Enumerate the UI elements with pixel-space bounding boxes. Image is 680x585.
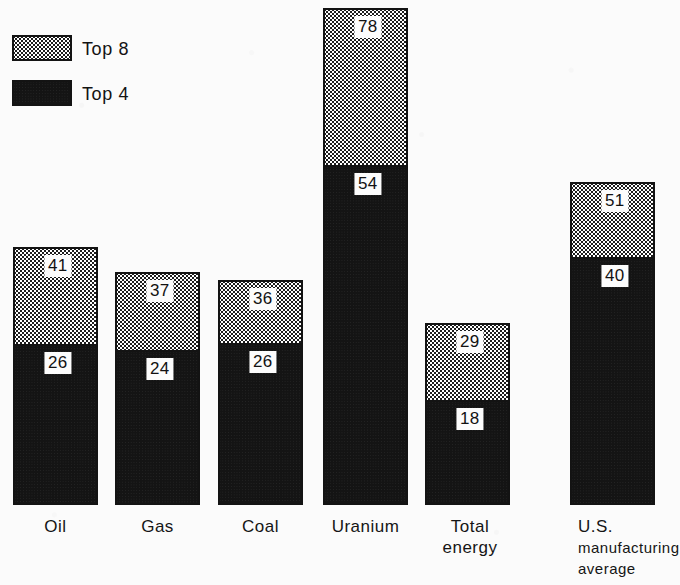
bar-oil-value-top-4: 26 [44,352,72,374]
bar-total-energy-value-top-4: 18 [456,408,484,430]
bar-oil-segment-top-8: 41 [15,249,96,344]
bar-oil: 41 26 [13,247,98,505]
bar-total-energy-segment-top-8: 29 [427,325,508,400]
legend-label-top-4: Top 4 [82,84,129,105]
bar-gas-value-top-8: 37 [146,280,174,302]
legend-item-top-8: Top 8 [0,35,200,63]
bar-coal-segment-top-8: 36 [220,282,301,343]
bar-gas-segment-top-4: 24 [117,350,198,503]
legend-label-top-8: Top 8 [82,39,129,60]
bar-gas-segment-top-8: 37 [117,274,198,350]
bar-uranium: 78 54 [323,8,408,505]
bar-gas-value-top-4: 24 [146,358,174,380]
legend-item-top-4: Top 4 [0,80,200,108]
bar-total-energy: 29 18 [425,323,510,505]
bar-uranium-value-top-4: 54 [354,173,382,195]
bar-us-manufacturing-average-segment-top-4: 40 [572,257,653,503]
category-label-us-manufacturing-average: U.S. manufacturing average [578,516,680,579]
category-label-coal: Coal [218,516,303,537]
bar-gas: 37 24 [115,272,200,505]
category-label-coal-line-1: Coal [218,516,303,537]
category-label-gas: Gas [115,516,200,537]
bar-oil-segment-top-4: 26 [15,344,96,503]
category-label-us-manufacturing-average-line-3: average [578,558,680,579]
category-label-uranium: Uranium [313,516,418,537]
category-label-oil-line-1: Oil [13,516,98,537]
bar-total-energy-value-top-8: 29 [456,331,484,353]
category-label-total-energy-line-2: energy [425,537,515,558]
bar-us-manufacturing-average-value-top-8: 51 [601,190,629,212]
stacked-bar-chart: Top 8 Top 4 41 26 Oil 37 24 [0,0,680,585]
bar-us-manufacturing-average: 51 40 [570,182,655,505]
bar-coal-segment-top-4: 26 [220,343,301,503]
bar-uranium-segment-top-4: 54 [325,165,406,503]
bar-coal-value-top-8: 36 [249,288,277,310]
bar-coal-value-top-4: 26 [249,351,277,373]
bar-uranium-value-top-8: 78 [354,16,382,38]
bar-coal: 36 26 [218,280,303,505]
bar-us-manufacturing-average-segment-top-8: 51 [572,184,653,257]
bar-uranium-segment-top-8: 78 [325,10,406,165]
category-label-total-energy: Total energy [425,516,515,558]
legend-swatch-top-4 [12,80,72,106]
category-label-oil: Oil [13,516,98,537]
category-label-uranium-line-1: Uranium [313,516,418,537]
category-label-gas-line-1: Gas [115,516,200,537]
category-label-us-manufacturing-average-line-1: U.S. [578,516,680,537]
category-label-total-energy-line-1: Total [425,516,515,537]
bar-total-energy-segment-top-4: 18 [427,400,508,503]
category-label-us-manufacturing-average-line-2: manufacturing [578,537,680,558]
legend-swatch-top-8 [12,35,72,61]
bar-us-manufacturing-average-value-top-4: 40 [601,265,629,287]
bar-oil-value-top-8: 41 [44,255,72,277]
